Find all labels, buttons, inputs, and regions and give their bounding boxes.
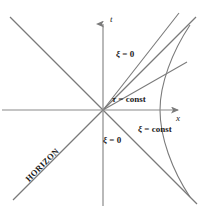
equals-sign-xi-const: = xyxy=(144,124,149,134)
equals-sign-lower: = xyxy=(109,135,114,145)
xi-symbol-upper: ξ xyxy=(116,49,120,59)
tau-symbol: τ xyxy=(112,94,116,104)
xi-const-label: ξ = const xyxy=(138,125,172,134)
x-axis-label: x xyxy=(176,114,180,123)
equals-sign-tau: = xyxy=(118,94,123,104)
xi-symbol-const: ξ xyxy=(138,124,142,134)
t-axis-label: t xyxy=(110,15,113,24)
xi-const-value: const xyxy=(152,124,172,134)
tau-const-label: τ = const xyxy=(112,95,146,104)
xi-symbol-lower: ξ xyxy=(103,135,107,145)
xi-zero-value-lower: 0 xyxy=(117,135,122,145)
equals-sign-upper: = xyxy=(122,49,127,59)
xi-zero-value-upper: 0 xyxy=(130,49,135,59)
xi-zero-upper-label: ξ = 0 xyxy=(116,50,134,59)
tau-const-value: const xyxy=(126,94,146,104)
spacetime-diagram-figure: t x ξ = 0 τ = const ξ = const ξ = 0 HORI… xyxy=(0,0,201,211)
xi-zero-lower-label: ξ = 0 xyxy=(103,136,121,145)
horizon-line-future-left xyxy=(10,17,103,110)
